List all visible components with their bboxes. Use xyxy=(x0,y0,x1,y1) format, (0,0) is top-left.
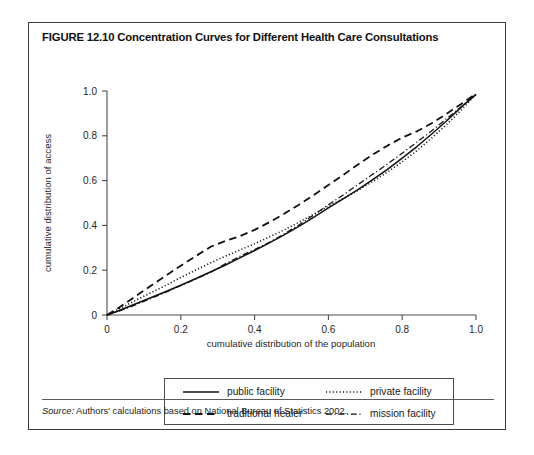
legend-label: private facility xyxy=(370,386,432,397)
figure-title: FIGURE 12.10 Concentration Curves for Di… xyxy=(42,31,438,43)
y-tick-label: 0 xyxy=(91,310,97,321)
y-tick-label: 0.4 xyxy=(83,220,97,231)
y-axis-ticks: 00.20.40.60.81.0 xyxy=(83,86,107,321)
y-tick-label: 0.6 xyxy=(83,175,97,186)
legend-item-public-facility: public facility xyxy=(165,386,316,397)
legend-item-private-facility: private facility xyxy=(316,386,453,397)
figure-card: FIGURE 12.10 Concentration Curves for Di… xyxy=(28,22,506,430)
source-note: Source: Authors' calculations based on N… xyxy=(42,406,347,416)
x-tick-label: 1.0 xyxy=(469,324,483,335)
series-line-mission-facility xyxy=(107,94,476,315)
series-line-public-facility xyxy=(107,94,476,315)
legend-swatch-dotted xyxy=(326,387,362,397)
chart-legend: public facility private facility traditi… xyxy=(164,378,454,425)
y-axis-title: cumulative distribution of access xyxy=(42,134,53,272)
x-tick-label: 0.2 xyxy=(174,324,188,335)
y-tick-label: 1.0 xyxy=(83,86,97,97)
x-tick-label: 0 xyxy=(104,324,110,335)
legend-label: public facility xyxy=(227,386,285,397)
concentration-curves-chart: 00.20.40.60.81.0 00.20.40.60.81.0 cumula… xyxy=(29,51,507,351)
y-tick-label: 0.8 xyxy=(83,130,97,141)
x-axis-title: cumulative distribution of the populatio… xyxy=(207,338,376,349)
x-axis-ticks: 00.20.40.60.81.0 xyxy=(104,315,483,335)
legend-swatch-solid xyxy=(183,387,219,397)
plot-region: 00.20.40.60.81.0 00.20.40.60.81.0 cumula… xyxy=(29,51,507,351)
legend-label: mission facility xyxy=(370,408,436,419)
x-tick-label: 0.6 xyxy=(321,324,335,335)
axes xyxy=(107,91,476,315)
series-line-traditional-healer xyxy=(107,94,476,315)
y-tick-label: 0.2 xyxy=(83,265,97,276)
series-lines xyxy=(107,94,476,315)
series-line-private-facility xyxy=(107,94,476,315)
x-tick-label: 0.8 xyxy=(395,324,409,335)
source-label: Source: xyxy=(42,406,74,416)
x-tick-label: 0.4 xyxy=(248,324,262,335)
source-text: Authors' calculations based on National … xyxy=(74,406,347,416)
source-divider xyxy=(42,399,494,400)
